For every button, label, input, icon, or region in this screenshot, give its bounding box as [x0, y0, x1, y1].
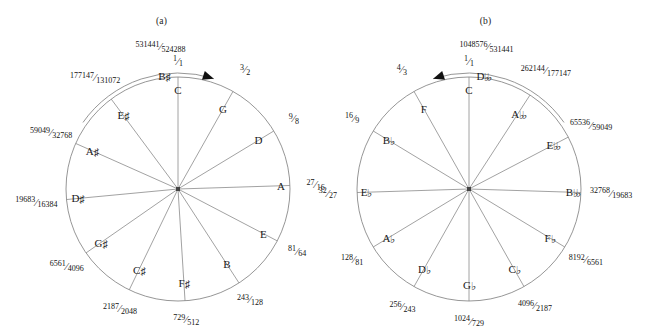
note-label-g-flat: G♭: [463, 280, 475, 291]
note-label-b-sharp: B♯: [158, 70, 170, 81]
figure-panel-b: (b) C1⁄1F4⁄3B♭16⁄9E♭32⁄27A♭128⁄81D♭256⁄2…: [324, 0, 647, 329]
sharp-accidental-icon: ♯: [124, 110, 129, 122]
ratio-label: 9⁄8: [289, 112, 299, 126]
sharp-accidental-icon: ♯: [140, 264, 145, 276]
ratio-label: 59049⁄32768: [30, 126, 72, 140]
ratio-label: 2187⁄2048: [103, 302, 137, 316]
ratio-label: 6561⁄4096: [50, 259, 84, 273]
spoke-line: [357, 189, 469, 193]
note-label-c: C: [174, 85, 181, 96]
note-label-g: G: [219, 103, 227, 114]
note-label-e-dblflat: E♭♭: [546, 140, 558, 151]
ratio-label: 177147⁄131072: [70, 71, 120, 85]
flat-accidental-icon: ♭: [426, 264, 430, 276]
ratio-label: 4096⁄2187: [518, 299, 552, 313]
note-label-d: D: [254, 135, 262, 146]
ratio-label: 531441⁄524288: [135, 40, 185, 54]
note-label-a: A: [277, 180, 285, 191]
ratio-label: 4⁄3: [397, 63, 407, 77]
ratio-label: 32⁄27: [319, 187, 337, 201]
spoke-line: [178, 185, 290, 189]
ratio-label: 65536⁄59049: [570, 118, 612, 132]
ratio-label: 32768⁄19683: [590, 187, 632, 201]
figure-panel-a: (a) C1⁄1G3⁄2D9⁄8A27⁄16E81⁄64B243⁄128F♯72…: [0, 0, 323, 329]
dblflat-accidental-icon: ♭♭: [553, 140, 558, 152]
note-label-c-flat: C♭: [508, 264, 519, 275]
ratio-label: 81⁄64: [288, 244, 306, 258]
center-hub: [467, 187, 471, 191]
note-label-a-sharp: A♯: [86, 145, 98, 156]
note-label-c: C: [465, 85, 472, 96]
clockwise-arrow-head: [202, 71, 214, 80]
ratio-label: 729⁄512: [173, 313, 199, 327]
ratio-label: 243⁄128: [237, 293, 263, 307]
flat-accidental-icon: ♭: [516, 264, 520, 276]
note-label-e: E: [260, 228, 267, 239]
note-label-c-sharp: C♯: [133, 264, 145, 275]
sharp-accidental-icon: ♯: [165, 70, 170, 82]
counter-clockwise-arrow-arc: [433, 73, 564, 122]
sharp-accidental-icon: ♯: [79, 193, 84, 205]
note-label-b-dblflat: B♭♭: [566, 187, 578, 198]
note-label-e-sharp: E♯: [118, 110, 129, 121]
note-label-d-dblflat: D♭♭: [476, 70, 489, 81]
ratio-label: 128⁄81: [341, 253, 363, 267]
note-label-f-flat: F♭: [544, 232, 554, 243]
ratio-label: 1048576⁄531441: [459, 40, 513, 54]
note-label-a-flat: A♭: [383, 232, 395, 243]
ratio-label: 256⁄243: [389, 300, 415, 314]
note-label-f: F: [421, 103, 427, 114]
note-label-f-sharp: F♯: [179, 277, 190, 288]
flat-accidental-icon: ♭: [390, 232, 394, 244]
dblflat-accidental-icon: ♭♭: [519, 108, 524, 120]
note-label-g-sharp: G♯: [95, 237, 107, 248]
note-label-a-dblflat: A♭♭: [511, 108, 524, 119]
center-hub: [176, 187, 180, 191]
dblflat-accidental-icon: ♭♭: [573, 187, 578, 199]
ratio-label: 262144⁄177147: [521, 64, 571, 78]
dblflat-accidental-icon: ♭♭: [484, 70, 489, 82]
ratio-label: 1⁄1: [173, 54, 183, 68]
flat-accidental-icon: ♭: [390, 135, 394, 147]
note-label-e-flat: E♭: [361, 187, 372, 198]
note-label-d-sharp: D♯: [71, 193, 83, 204]
ratio-label: 1⁄1: [464, 54, 474, 68]
flat-accidental-icon: ♭: [471, 280, 475, 292]
note-label-b: B: [223, 259, 230, 270]
flat-accidental-icon: ♭: [367, 187, 371, 199]
ratio-label: 19683⁄16384: [15, 195, 57, 209]
sharp-accidental-icon: ♯: [185, 277, 190, 289]
sharp-accidental-icon: ♯: [102, 237, 107, 249]
ratio-label: 16⁄9: [345, 111, 359, 125]
note-label-d-flat: D♭: [418, 264, 430, 275]
ratio-label: 8192⁄6561: [569, 253, 603, 267]
spoke-line: [469, 189, 581, 193]
counter-clockwise-arrow-head: [433, 71, 445, 80]
sharp-accidental-icon: ♯: [94, 145, 99, 157]
note-label-b-flat: B♭: [383, 135, 394, 146]
ratio-label: 1024⁄729: [454, 314, 484, 328]
ratio-label: 3⁄2: [240, 63, 250, 77]
flat-accidental-icon: ♭: [551, 232, 555, 244]
